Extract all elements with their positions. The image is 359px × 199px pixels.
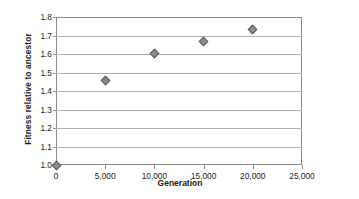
y-tick-mark bbox=[53, 17, 56, 18]
y-axis-title: Fitness relative to ancestor bbox=[23, 9, 33, 169]
x-tick-mark bbox=[154, 165, 155, 169]
y-tick-mark bbox=[53, 54, 56, 55]
plot-area: 1.01.11.21.31.41.51.61.71.8 05,00010,000… bbox=[56, 17, 302, 165]
data-point-marker bbox=[51, 160, 61, 170]
y-tick-mark bbox=[53, 128, 56, 129]
y-tick-label: 1.1 bbox=[40, 142, 52, 152]
y-tick-label: 1.6 bbox=[40, 49, 52, 59]
y-tick-label: 1.3 bbox=[40, 105, 52, 115]
data-point-marker bbox=[100, 76, 110, 86]
y-tick-label: 1.7 bbox=[40, 31, 52, 41]
y-tick-mark bbox=[53, 110, 56, 111]
y-tick-mark bbox=[53, 147, 56, 148]
gridline bbox=[56, 17, 302, 18]
x-tick-mark bbox=[105, 165, 106, 169]
y-tick-mark bbox=[53, 36, 56, 37]
y-tick-label: 1.4 bbox=[40, 86, 52, 96]
y-tick-mark bbox=[53, 91, 56, 92]
gridline bbox=[56, 36, 302, 37]
chart-figure: Fitness relative to ancestor 1.01.11.21.… bbox=[0, 0, 359, 199]
x-tick-mark bbox=[302, 165, 303, 169]
y-tick-label: 1.2 bbox=[40, 123, 52, 133]
y-tick-label: 1.8 bbox=[40, 12, 52, 22]
gridline bbox=[56, 91, 302, 92]
gridline bbox=[56, 147, 302, 148]
data-point-marker bbox=[248, 25, 258, 35]
x-axis-line bbox=[56, 164, 302, 165]
gridline bbox=[56, 54, 302, 55]
data-point-marker bbox=[149, 48, 159, 58]
y-tick-mark bbox=[53, 73, 56, 74]
y-tick-label: 1.5 bbox=[40, 68, 52, 78]
gridline bbox=[56, 110, 302, 111]
gridline bbox=[56, 73, 302, 74]
x-tick-mark bbox=[204, 165, 205, 169]
data-point-marker bbox=[199, 37, 209, 47]
x-axis-title: Generation bbox=[55, 178, 305, 188]
gridline bbox=[56, 128, 302, 129]
x-tick-mark bbox=[253, 165, 254, 169]
